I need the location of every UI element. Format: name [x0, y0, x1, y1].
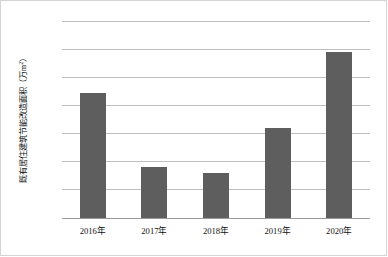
y-axis-title: 既有居住建筑节能改造面积（万m2）	[18, 18, 29, 218]
bar-2020年	[326, 52, 352, 218]
x-axis-tick-label: 2020年	[308, 227, 370, 236]
plot-area: 020004000600080001000012000140002016年201…	[62, 21, 370, 218]
y-axis-title-superscript: 2	[18, 62, 24, 65]
y-axis-title-tail: ）	[19, 54, 28, 62]
bar-2017年	[141, 167, 167, 218]
gridline-14000	[62, 21, 370, 22]
bar-2016年	[80, 93, 106, 218]
gridline-10000	[62, 77, 370, 78]
gridline-12000	[62, 49, 370, 50]
x-axis-tick-label: 2017年	[123, 227, 185, 236]
gridline-8000	[62, 105, 370, 106]
x-axis-tick-label: 2016年	[62, 227, 124, 236]
bar-2019年	[265, 128, 291, 218]
gridline-6000	[62, 133, 370, 134]
x-axis-tick-label: 2018年	[185, 227, 247, 236]
x-axis-tick-label: 2019年	[247, 227, 309, 236]
y-axis-title-main: 既有居住建筑节能改造面积（万m	[19, 65, 28, 183]
bar-2018年	[203, 173, 229, 218]
gridline-4000	[62, 161, 370, 162]
bar-chart-figure: 既有居住建筑节能改造面积（万m2） 0200040006000800010000…	[0, 0, 388, 257]
